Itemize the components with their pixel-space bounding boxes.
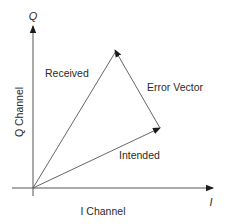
error-vector-label: Error Vector <box>147 81 204 93</box>
q-channel-label: Q Channel <box>13 87 25 137</box>
received-label: Received <box>45 67 89 79</box>
i-axis-symbol: I <box>209 196 212 208</box>
q-axis-symbol: Q <box>29 10 38 22</box>
i-channel-label: I Channel <box>81 205 126 217</box>
intended-label: Intended <box>119 149 160 161</box>
error-vector-diagram: Q I I Channel Q Channel Received Error V… <box>0 0 225 224</box>
